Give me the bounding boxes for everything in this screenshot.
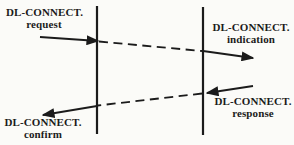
dl-connect-sequence-diagram: DL-CONNECT. request DL-CONNECT. indicati…	[0, 0, 294, 145]
confirm-label-line2: confirm	[4, 128, 82, 140]
response-label: DL-CONNECT. response	[212, 95, 294, 119]
indication-label: DL-CONNECT. indication	[210, 21, 292, 45]
confirm-arrow	[43, 106, 97, 115]
request-label-line1: DL-CONNECT.	[6, 6, 82, 18]
response-label-line2: response	[212, 107, 294, 119]
response-label-line1: DL-CONNECT.	[212, 95, 294, 107]
indication-label-line1: DL-CONNECT.	[210, 21, 292, 33]
request-label: DL-CONNECT. request	[6, 6, 82, 30]
indication-arrow	[203, 51, 253, 58]
top-dashed-provider-line	[99, 42, 202, 52]
request-arrow	[40, 37, 98, 41]
request-label-line2: request	[6, 18, 82, 30]
indication-label-line2: indication	[210, 33, 292, 45]
confirm-label-line1: DL-CONNECT.	[4, 116, 82, 128]
confirm-label: DL-CONNECT. confirm	[4, 116, 82, 140]
response-arrow	[207, 86, 253, 93]
bottom-dashed-provider-line	[98, 94, 202, 106]
